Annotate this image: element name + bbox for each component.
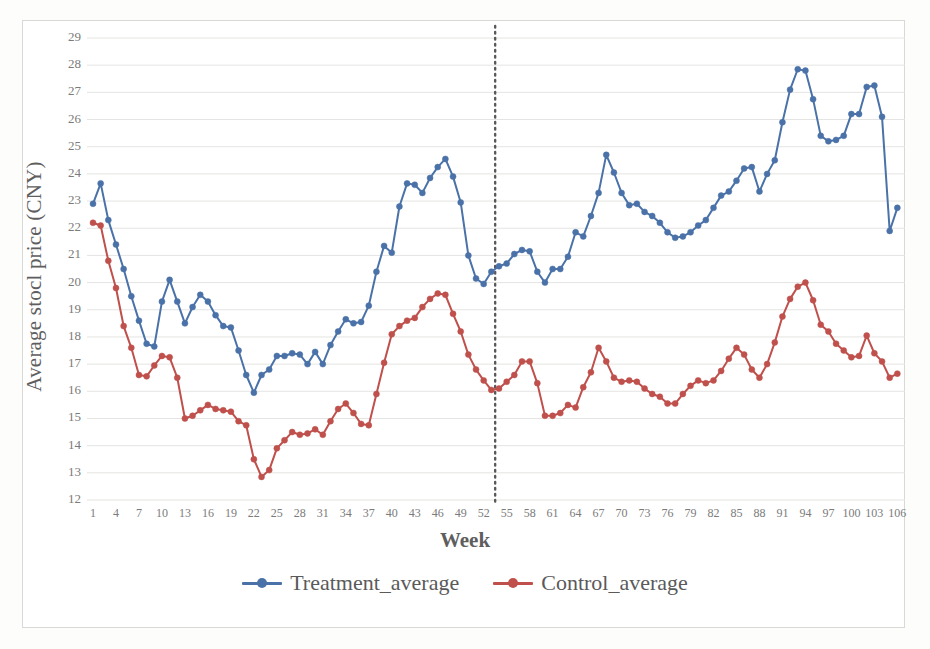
legend-label: Treatment_average	[290, 570, 459, 596]
legend-item-1[interactable]: Treatment_average	[242, 570, 459, 596]
y-tick-label: 22	[47, 219, 81, 235]
x-tick-label: 73	[639, 506, 651, 521]
y-tick-label: 14	[47, 437, 81, 453]
x-tick-label: 76	[662, 506, 674, 521]
x-tick-label: 85	[730, 506, 742, 521]
x-tick-label: 70	[616, 506, 628, 521]
y-tick-label: 26	[47, 111, 81, 127]
y-tick-label: 29	[47, 29, 81, 45]
y-tick-label: 18	[47, 328, 81, 344]
x-tick-label: 40	[386, 506, 398, 521]
x-tick-label: 61	[547, 506, 559, 521]
x-tick-label: 106	[888, 506, 906, 521]
x-tick-label: 88	[753, 506, 765, 521]
x-tick-label: 31	[317, 506, 329, 521]
x-tick-label: 64	[570, 506, 582, 521]
x-tick-label: 94	[799, 506, 811, 521]
y-tick-label: 25	[47, 138, 81, 154]
y-tick-label: 17	[47, 355, 81, 371]
legend-item-2[interactable]: Control_average	[493, 570, 688, 596]
x-tick-label: 52	[478, 506, 490, 521]
chart-container: Average stocl price (CNY) 12131415161718…	[0, 0, 930, 649]
x-tick-label: 43	[409, 506, 421, 521]
x-tick-label: 79	[685, 506, 697, 521]
x-tick-label: 1	[90, 506, 96, 521]
y-tick-label: 24	[47, 165, 81, 181]
y-tick-label: 28	[47, 56, 81, 72]
x-tick-label: 22	[248, 506, 260, 521]
x-tick-label: 58	[524, 506, 536, 521]
x-tick-label: 97	[822, 506, 834, 521]
x-tick-label: 13	[179, 506, 191, 521]
x-tick-label: 91	[776, 506, 788, 521]
chart-legend: Treatment_averageControl_average	[0, 570, 930, 596]
y-tick-label: 16	[47, 382, 81, 398]
y-axis-title: Average stocl price (CNY)	[22, 47, 47, 507]
x-tick-label: 19	[225, 506, 237, 521]
y-tick-label: 12	[47, 491, 81, 507]
y-tick-label: 20	[47, 274, 81, 290]
y-tick-label: 23	[47, 192, 81, 208]
legend-swatch-icon	[242, 576, 282, 590]
x-tick-label: 4	[113, 506, 119, 521]
x-tick-label: 10	[156, 506, 168, 521]
y-tick-label: 19	[47, 301, 81, 317]
x-tick-label: 46	[432, 506, 444, 521]
x-tick-label: 28	[294, 506, 306, 521]
legend-label: Control_average	[541, 570, 688, 596]
x-tick-label: 49	[455, 506, 467, 521]
legend-swatch-icon	[493, 576, 533, 590]
x-tick-label: 37	[363, 506, 375, 521]
x-axis-title: Week	[0, 528, 930, 553]
x-tick-label: 100	[842, 506, 860, 521]
y-tick-label: 13	[47, 464, 81, 480]
x-tick-label: 7	[136, 506, 142, 521]
y-tick-label: 21	[47, 246, 81, 262]
x-tick-label: 25	[271, 506, 283, 521]
x-tick-label: 34	[340, 506, 352, 521]
x-tick-label: 55	[501, 506, 513, 521]
x-tick-label: 82	[707, 506, 719, 521]
y-tick-label: 27	[47, 83, 81, 99]
x-tick-label: 103	[865, 506, 883, 521]
y-tick-label: 15	[47, 409, 81, 425]
x-tick-label: 67	[593, 506, 605, 521]
x-tick-label: 16	[202, 506, 214, 521]
